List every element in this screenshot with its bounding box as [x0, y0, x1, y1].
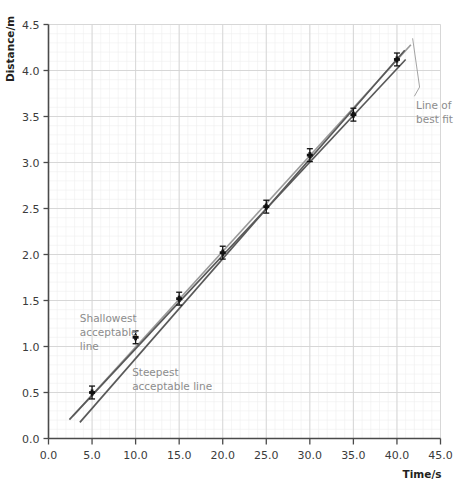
y-tick-label: 4.5 [22, 19, 40, 32]
x-tick-label: 5.0 [83, 449, 101, 462]
y-axis-title: Distance/m [4, 16, 16, 82]
x-tick-labels: 0.05.010.015.020.025.030.035.040.045.0 [40, 449, 453, 462]
y-tick-label: 4.0 [22, 65, 40, 78]
x-axis-title: Time/s [403, 468, 442, 480]
data-point-marker [308, 152, 311, 158]
data-point-marker [221, 250, 224, 256]
x-tick-label: 40.0 [385, 449, 410, 462]
data-point-marker [352, 112, 355, 118]
data-point-marker [91, 390, 94, 396]
annotation-leader-lines [413, 38, 420, 96]
leader-line-best-fit [413, 38, 420, 96]
annotation-line-of-best-fit: Line ofbest fit [416, 99, 453, 125]
y-tick-label: 2.0 [22, 249, 40, 262]
x-tick-label: 20.0 [210, 449, 235, 462]
annotation-shallowest-acceptable-line: Shallowestacceptableline [80, 312, 138, 352]
y-tick-label: 3.5 [22, 111, 40, 124]
data-point-marker [178, 296, 181, 302]
y-tick-label: 2.5 [22, 203, 40, 216]
y-tick-label: 0.0 [22, 433, 40, 446]
distance-time-graph: 0.05.010.015.020.025.030.035.040.045.0 0… [0, 0, 463, 483]
y-tick-label: 3.0 [22, 157, 40, 170]
x-tick-label: 30.0 [298, 449, 323, 462]
chart-container: 0.05.010.015.020.025.030.035.040.045.0 0… [0, 0, 463, 483]
x-tick-label: 35.0 [341, 449, 366, 462]
x-tick-label: 45.0 [428, 449, 453, 462]
x-tick-label: 15.0 [167, 449, 192, 462]
data-point-marker [265, 204, 268, 210]
data-point-marker [396, 56, 399, 62]
y-tick-label: 1.5 [22, 295, 40, 308]
y-tick-label: 1.0 [22, 341, 40, 354]
x-tick-label: 10.0 [123, 449, 148, 462]
y-tick-label: 0.5 [22, 387, 40, 400]
x-tick-label: 25.0 [254, 449, 279, 462]
x-tick-label: 0.0 [40, 449, 58, 462]
y-tick-labels: 0.00.51.01.52.02.53.03.54.04.5 [22, 19, 40, 446]
